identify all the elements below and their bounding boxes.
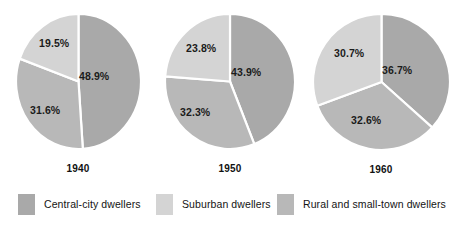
pie-chart-1950 bbox=[164, 13, 296, 150]
year-label-1960: 1960 bbox=[341, 164, 421, 175]
year-label-1940: 1940 bbox=[38, 163, 118, 174]
slice-label-1940-rural: 31.6% bbox=[30, 104, 60, 116]
slice-label-1960-rural: 32.6% bbox=[351, 114, 381, 126]
pie-slices-1950 bbox=[164, 13, 296, 150]
legend-label-rural: Rural and small-town dwellers bbox=[303, 198, 446, 210]
legend-swatch-rural bbox=[277, 194, 294, 215]
slice-label-1960-central-city: 36.7% bbox=[382, 64, 412, 76]
year-label-1950: 1950 bbox=[190, 163, 270, 174]
pie-chart-1960 bbox=[312, 13, 451, 151]
slice-label-1950-central-city: 43.9% bbox=[231, 66, 261, 78]
legend: Central-city dwellers Suburban dwellers … bbox=[0, 189, 455, 219]
legend-swatch-central-city bbox=[18, 194, 35, 215]
legend-label-central-city: Central-city dwellers bbox=[44, 198, 141, 210]
slice-label-1960-suburban: 30.7% bbox=[334, 47, 364, 59]
legend-item-central-city: Central-city dwellers bbox=[18, 192, 141, 216]
legend-swatch-suburban bbox=[156, 194, 173, 215]
pie-slices-1960 bbox=[312, 13, 451, 151]
legend-label-suburban: Suburban dwellers bbox=[182, 198, 271, 210]
pie-chart-figure: 1940 48.9% 31.6% 19.5% 1950 43.9% 32.3% … bbox=[0, 0, 455, 231]
slice-label-1940-central-city: 48.9% bbox=[79, 70, 109, 82]
slice-label-1950-suburban: 23.8% bbox=[186, 42, 216, 54]
legend-item-suburban: Suburban dwellers bbox=[156, 192, 271, 216]
slice-label-1940-suburban: 19.5% bbox=[39, 37, 69, 49]
legend-item-rural: Rural and small-town dwellers bbox=[277, 192, 446, 216]
slice-label-1950-rural: 32.3% bbox=[180, 106, 210, 118]
